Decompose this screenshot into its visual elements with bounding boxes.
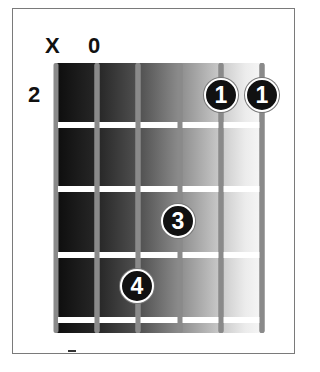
start-fret-number: 2 xyxy=(28,82,40,108)
fret-line-1 xyxy=(58,122,262,128)
string-6 xyxy=(54,63,59,333)
string-3-overlay xyxy=(178,63,183,333)
decorative-tick xyxy=(68,350,76,352)
string-5-overlay xyxy=(95,63,100,333)
finger-dot: 1 xyxy=(204,78,238,112)
fret-line-4 xyxy=(58,317,262,323)
finger-dot: 1 xyxy=(245,78,279,112)
finger-dot: 4 xyxy=(120,269,154,303)
fret-line-2 xyxy=(58,186,262,192)
finger-dot: 3 xyxy=(161,204,195,238)
fret-line-3 xyxy=(58,252,262,258)
open-string-marker: 0 xyxy=(88,33,100,59)
muted-string-marker: X xyxy=(45,33,60,59)
